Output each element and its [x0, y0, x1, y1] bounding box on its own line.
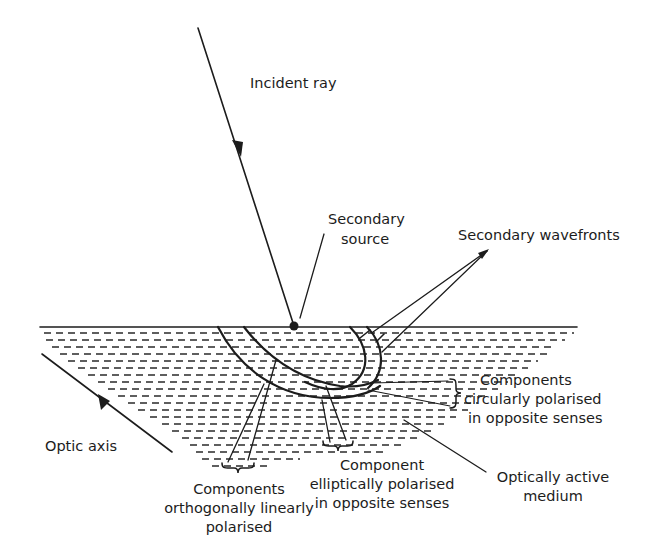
secondary-wavefronts	[218, 327, 384, 398]
label-optic-axis: Optic axis	[45, 438, 117, 454]
label-circular-line3: in opposite senses	[468, 410, 602, 426]
secondary-source-point	[290, 322, 299, 331]
label-elliptical-line3: in opposite senses	[315, 495, 449, 511]
label-secondary-source-line2: source	[341, 231, 389, 247]
optical-activity-diagram: Incident ray Secondary source Secondary …	[0, 0, 655, 560]
label-linear-line2: orthogonally linearly	[164, 500, 314, 516]
label-secondary-source-line1: Secondary	[328, 211, 405, 227]
label-elliptical-line1: Component	[340, 457, 424, 473]
label-linear-line3: polarised	[206, 519, 273, 535]
label-linear-line1: Components	[193, 481, 285, 497]
label-incident-ray: Incident ray	[250, 75, 337, 91]
incident-ray-arrow-icon	[232, 140, 243, 157]
brace-elliptical-icon	[323, 441, 353, 451]
brace-linear-icon	[222, 463, 254, 473]
label-secondary-wavefronts: Secondary wavefronts	[458, 227, 620, 243]
incident-ray	[198, 28, 294, 326]
brace-circular-icon	[450, 379, 461, 408]
label-medium-line2: medium	[523, 488, 583, 504]
label-circular-line2: circularly polarised	[464, 391, 602, 407]
optic-axis-arrow-icon	[98, 394, 110, 410]
label-medium-line1: Optically active	[497, 469, 610, 485]
label-circular-line1: Components	[480, 372, 572, 388]
label-elliptical-line2: elliptically polarised	[310, 476, 455, 492]
